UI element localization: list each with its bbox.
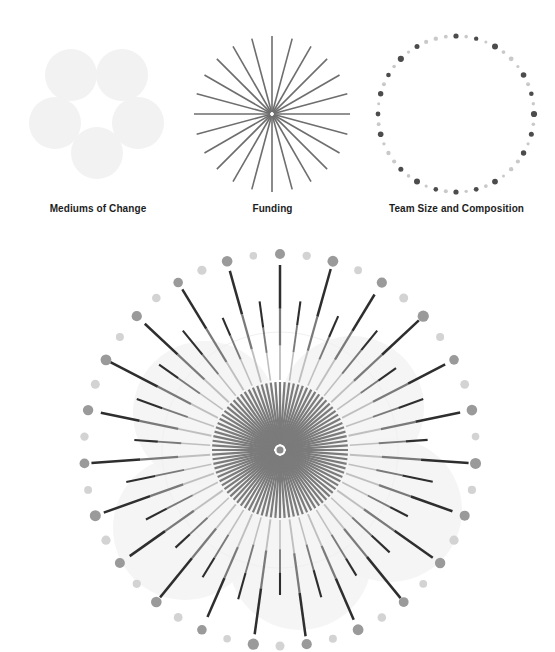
outer-dot-24[interactable] [248,639,259,650]
outer-dot-20[interactable] [353,624,364,635]
legend-label-mediums-of-change: Mediums of Change [0,203,196,215]
outer-dot-32[interactable] [90,510,101,521]
outer-dot-18[interactable] [399,597,409,607]
outer-dot-41[interactable] [152,294,161,303]
legend-ring-dot-27 [425,184,428,187]
legend-ring-dot-34 [378,131,384,137]
legend-label-funding: Funding [185,203,360,215]
outer-dot-11[interactable] [472,433,480,441]
outer-dot-31[interactable] [101,536,110,545]
outer-dot-37[interactable] [91,380,100,389]
radial-sunburst-canvas [0,228,555,652]
legend-item-funding[interactable]: Funding [185,0,360,228]
outer-dot-6[interactable] [418,311,429,322]
legend-ray-1 [273,39,293,112]
outer-dot-8[interactable] [449,355,459,365]
outer-dot-35[interactable] [80,432,88,440]
outer-dot-13[interactable] [468,486,476,494]
spoke-4-segment-2 [352,295,374,331]
outer-dot-22[interactable] [302,639,312,649]
legend-ring-dot-40 [386,73,391,78]
legend-ring-dot-7 [516,65,519,68]
spoke-2-segment-2 [317,269,330,317]
spoke-6-segment-2 [382,320,419,354]
legend-ring-dot-15 [526,142,529,145]
outer-dot-33[interactable] [84,486,92,494]
legend-ray-23 [252,39,272,112]
legend-ring-dot-41 [392,65,396,69]
outer-dot-5[interactable] [399,293,408,302]
outer-dot-30[interactable] [115,558,125,568]
outer-dot-7[interactable] [436,333,444,341]
outer-dot-1[interactable] [302,252,310,260]
legend-ring-dot-45 [424,40,428,44]
outer-dot-26[interactable] [197,625,207,635]
spoke-2-segment-1 [308,317,318,351]
legend-ring-dot-10 [529,92,534,97]
outer-dot-2[interactable] [327,256,338,267]
spoke-11-segment-2 [406,440,428,441]
outer-dot-28[interactable] [151,597,162,608]
outer-dot-0[interactable] [275,249,285,259]
legend-ring-dot-0 [453,33,458,38]
spoke-42-segment-2 [182,289,206,328]
legend-ring-dot-31 [392,159,396,163]
five-circles-icon [0,18,196,198]
spoke-45-segment-2 [260,301,264,327]
legend-ray-21 [217,59,271,113]
legend-ray-3 [273,59,327,113]
legend-ring-dot-39 [382,82,386,86]
outer-dot-4[interactable] [377,277,387,287]
outer-dot-44[interactable] [222,256,233,267]
outer-dot-27[interactable] [174,613,183,622]
legend-ray-19 [197,94,270,114]
legend-ring-dot-14 [529,132,534,137]
legend-ring-dot-1 [464,35,468,39]
outer-dot-45[interactable] [250,252,258,260]
legend-ring-dot-35 [377,122,381,126]
legend-circle-2 [29,97,81,149]
outer-dot-12[interactable] [470,458,481,469]
outer-dot-43[interactable] [197,266,206,275]
legend-ray-15 [217,115,271,169]
outer-dot-10[interactable] [467,405,478,416]
dotted-ring-icon [358,18,555,198]
outer-dot-16[interactable] [435,558,445,568]
starburst-icon [185,18,360,198]
outer-dot-42[interactable] [173,278,183,288]
legend-ring-dot-11 [532,102,535,105]
outer-dot-14[interactable] [460,511,470,521]
legend-ray-7 [274,115,347,135]
outer-dot-21[interactable] [329,635,337,643]
outer-dot-25[interactable] [223,635,231,643]
legend-ray-17 [197,115,270,135]
main-radial-chart [0,228,555,652]
legend-ring-dot-38 [378,91,383,96]
legend-ring-dot-3 [484,40,487,43]
outer-dot-34[interactable] [80,458,90,468]
outer-dot-15[interactable] [449,536,458,545]
outer-dot-9[interactable] [460,380,469,389]
legend-ring-dot-2 [474,36,478,40]
outer-dot-40[interactable] [132,311,142,321]
outer-dot-36[interactable] [83,405,93,415]
spoke-34-segment-2 [91,460,140,463]
outer-dot-23[interactable] [276,642,285,651]
legend-label-team-size-and-composition: Team Size and Composition [358,203,555,215]
legend-ring-dot-6 [509,56,514,61]
outer-dot-19[interactable] [378,613,387,622]
outer-dot-3[interactable] [354,266,362,274]
legend-ray-11 [273,116,293,189]
outer-dot-38[interactable] [101,354,112,365]
outer-dot-17[interactable] [419,580,427,588]
legend-ring-dot-33 [382,142,385,145]
outer-dot-39[interactable] [116,333,124,341]
spoke-44-segment-1 [242,314,252,349]
spoke-1-segment-1 [293,325,297,352]
spoke-40-segment-2 [145,324,178,355]
legend-ring-dot-20 [492,179,498,185]
legend-ring-dot-42 [398,56,404,62]
legend-item-mediums-of-change[interactable]: Mediums of Change [0,0,196,228]
outer-dot-29[interactable] [133,580,141,588]
legend-item-team-size-and-composition[interactable]: Team Size and Composition [358,0,555,228]
